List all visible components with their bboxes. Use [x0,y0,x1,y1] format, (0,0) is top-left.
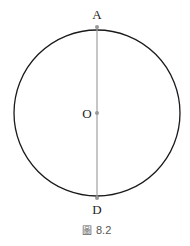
point-A [95,25,99,29]
point-O [95,111,99,115]
caption-prefix: 圖 [82,225,92,236]
point-D [95,196,99,200]
caption-number: 8.2 [96,224,111,236]
label-A: A [92,7,102,22]
label-O: O [82,106,91,121]
figure-canvas: A O D 圖 8.2 [0,0,190,246]
label-D: D [92,202,101,217]
